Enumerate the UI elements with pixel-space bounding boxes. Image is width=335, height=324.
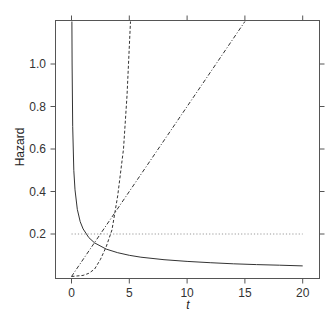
x-tick-label: 20 — [296, 286, 310, 300]
series-dashdot-line — [72, 22, 245, 277]
y-tick-label: 0.8 — [29, 100, 46, 114]
hazard-chart: 05101520 0.20.40.60.81.0 t Hazard — [0, 0, 335, 324]
series-solid-line — [72, 22, 303, 266]
plot-curves — [72, 22, 303, 277]
series-dashed-line — [72, 22, 131, 277]
y-tick-label: 1.0 — [29, 57, 46, 71]
x-tick-label: 15 — [238, 286, 252, 300]
x-axis: 05101520 — [68, 16, 310, 301]
x-tick-label: 5 — [126, 286, 133, 300]
y-tick-label: 0.2 — [29, 227, 46, 241]
plot-frame — [56, 21, 320, 279]
y-tick-label: 0.6 — [29, 142, 46, 156]
x-tick-label: 0 — [68, 286, 75, 300]
y-tick-label: 0.4 — [29, 185, 46, 199]
y-axis-title: Hazard — [13, 128, 27, 167]
x-axis-title: t — [186, 298, 190, 312]
